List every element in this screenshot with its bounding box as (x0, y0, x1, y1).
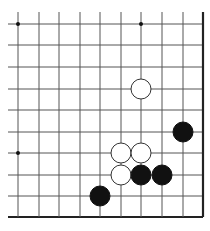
black-stone[interactable] (152, 165, 172, 185)
black-stone[interactable] (90, 186, 110, 206)
star-point-icon (16, 151, 20, 155)
go-board[interactable] (0, 0, 210, 231)
white-stone[interactable] (131, 79, 151, 99)
black-stone[interactable] (131, 165, 151, 185)
board-grid (8, 12, 203, 217)
white-stone[interactable] (111, 143, 131, 163)
star-point-icon (139, 22, 143, 26)
white-stone[interactable] (131, 143, 151, 163)
star-point-icon (16, 22, 20, 26)
white-stone[interactable] (111, 165, 131, 185)
black-stone[interactable] (173, 122, 193, 142)
